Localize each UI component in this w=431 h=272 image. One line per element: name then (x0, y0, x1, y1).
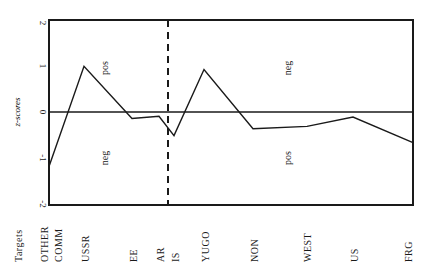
ytick-m2: -2 (38, 200, 48, 208)
category-us: US (349, 248, 360, 262)
x-axis-label: Targets (13, 229, 24, 262)
line-chart: 2 1 0 -1 -2 z-scores pos neg neg pos Tar… (0, 0, 431, 272)
category-ussr: USSR (80, 235, 91, 262)
annotation-neg-left: neg (99, 151, 110, 165)
category-ar: AR (155, 247, 166, 262)
annotation-pos-right: pos (282, 151, 293, 165)
category-comm: COMM (53, 228, 64, 262)
category-west: WEST (302, 233, 313, 262)
category-is: IS (170, 252, 181, 262)
ytick-2: 2 (38, 21, 48, 26)
category-other: OTHER (39, 226, 50, 262)
category-non: NON (249, 239, 260, 262)
category-yugo: YUGO (200, 231, 211, 262)
category-frg: FRG (403, 241, 414, 262)
ytick-1: 1 (38, 64, 48, 69)
category-ee: EE (128, 249, 139, 262)
y-axis-label: z-scores (12, 97, 22, 128)
annotation-neg-right: neg (282, 61, 293, 75)
annotation-pos-left: pos (99, 61, 110, 75)
ytick-m1: -1 (38, 154, 48, 162)
ytick-0: 0 (38, 110, 48, 115)
